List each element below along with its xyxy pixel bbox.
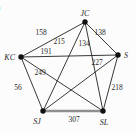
edge-weight-JC-KC: 158 <box>35 28 47 37</box>
edge-weight-KC-S: 191 <box>40 47 52 56</box>
edge-weight-KC-SJ: 56 <box>14 83 22 92</box>
node-label-SL: SL <box>100 118 109 127</box>
edge-weight-JC-S: 138 <box>94 28 106 37</box>
node-label-S: S <box>124 51 128 60</box>
edge-weight-JC-SL: 134 <box>78 39 90 48</box>
edge-line-KC-SJ <box>21 57 43 111</box>
graph-figure: 15821519113813422724956218307 JCKCSSJSL … <box>0 0 136 133</box>
node-dot-KC <box>18 54 23 59</box>
node-label-SJ: SJ <box>33 117 41 126</box>
edge-line-JC-SJ <box>43 22 85 111</box>
node-dot-SL <box>100 108 105 113</box>
edge-weight-KC-SL: 249 <box>34 68 46 77</box>
graph-diagram: 15821519113813422724956218307 JCKCSSJSL … <box>0 0 136 133</box>
edge-weights-layer: 15821519113813422724956218307 <box>14 28 123 124</box>
edge-weight-JC-SJ: 215 <box>53 37 65 46</box>
edge-line-JC-S <box>85 22 118 55</box>
edge-line-S-SJ <box>43 55 118 111</box>
node-label-KC: KC <box>3 53 15 62</box>
node-dot-S <box>115 52 120 57</box>
nodes-layer: JCKCSSJSL <box>3 9 128 127</box>
edge-weight-S-SJ: 227 <box>91 58 103 67</box>
node-dot-SJ <box>40 108 45 113</box>
edge-weight-SJ-SL: 307 <box>68 115 80 124</box>
edge-weight-S-SL: 218 <box>111 83 123 92</box>
node-dot-JC <box>82 19 87 24</box>
node-label-JC: JC <box>81 9 91 18</box>
